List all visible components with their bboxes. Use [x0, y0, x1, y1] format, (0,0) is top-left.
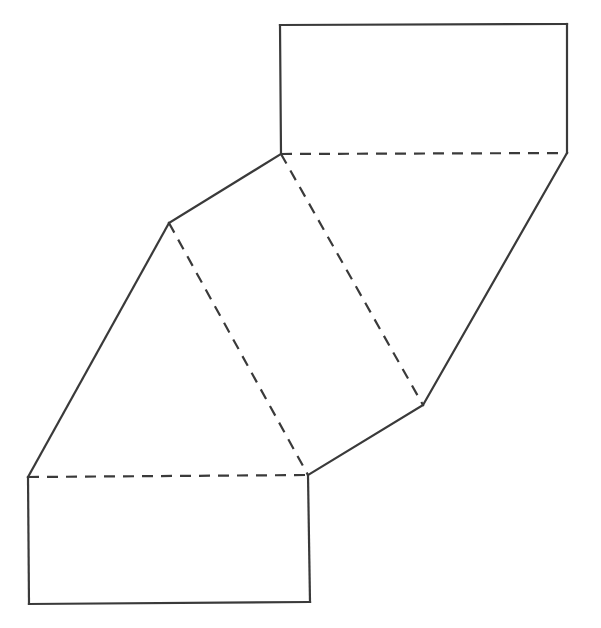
edge-DA	[280, 25, 281, 154]
fold-line-GH	[28, 475, 308, 477]
fold-lines	[28, 153, 567, 477]
edge-JG	[28, 477, 29, 604]
edge-HI	[308, 475, 310, 602]
edge-IJ	[29, 602, 310, 604]
edge-GE	[28, 223, 169, 477]
prism-net-diagram	[0, 0, 601, 628]
edge-AB	[280, 24, 567, 25]
outline-edges	[28, 24, 567, 604]
fold-line-DC	[281, 153, 567, 154]
edge-CF	[423, 153, 567, 405]
edge-FH	[308, 405, 423, 475]
fold-line-DF	[281, 154, 423, 405]
fold-line-EH	[169, 223, 308, 475]
edge-ED	[169, 154, 281, 223]
